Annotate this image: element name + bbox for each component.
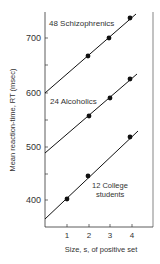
- x-axis-label: Size, s, of positive set: [65, 245, 138, 254]
- line-college-students: [45, 131, 138, 219]
- x-tick-2: 2: [87, 231, 92, 240]
- line-alcoholics: [45, 74, 137, 153]
- y-ticks: [45, 38, 48, 200]
- point-college-1: [65, 197, 70, 202]
- x-tick-3: 3: [108, 231, 113, 240]
- point-alcoholics-2: [87, 114, 92, 119]
- y-tick-600: 600: [26, 88, 41, 98]
- x-tick-4: 4: [130, 231, 135, 240]
- x-tick-1: 1: [65, 231, 70, 240]
- label-college-line1: 12 College: [92, 181, 128, 190]
- point-schizophrenics-3: [107, 36, 112, 41]
- y-axis-label: Mean reaction-time, RT (msec): [8, 68, 17, 172]
- point-alcoholics-4: [128, 77, 133, 82]
- label-schizophrenics: 48 Schizophrenics: [49, 19, 114, 28]
- point-college-2: [86, 174, 91, 179]
- y-tick-500: 500: [26, 142, 41, 152]
- label-alcoholics: 24 Alcoholics: [50, 97, 97, 106]
- point-alcoholics-3: [108, 96, 113, 101]
- y-tick-400: 400: [26, 195, 41, 205]
- point-schizophrenics-4: [128, 16, 133, 21]
- point-schizophrenics-2: [86, 54, 91, 59]
- x-ticks: [67, 224, 132, 227]
- point-college-4: [128, 135, 133, 140]
- label-college-line2: students: [96, 190, 125, 199]
- y-tick-700: 700: [26, 33, 41, 43]
- chart: 700 600 500 400 1 2 3 4 Size, s, of posi…: [0, 0, 160, 264]
